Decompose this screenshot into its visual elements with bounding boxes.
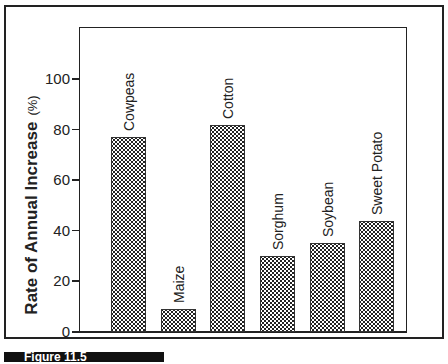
y-tick	[72, 78, 79, 80]
y-tick	[72, 230, 79, 232]
bar-cowpeas	[111, 137, 146, 332]
bar-label: Maize	[172, 266, 186, 303]
bar-label: Cotton	[221, 77, 235, 118]
bar-sweet-potato	[359, 221, 394, 332]
y-tick-label: 100	[34, 71, 70, 87]
y-tick	[72, 280, 79, 282]
bar-label: Cowpeas	[122, 73, 136, 131]
bar-label: Soybean	[321, 182, 335, 237]
bar-label: Sweet Potato	[370, 131, 384, 214]
bar-maize	[161, 309, 196, 332]
bar-soybean	[310, 243, 345, 332]
y-tick	[72, 331, 79, 333]
bar-sorghum	[260, 256, 295, 332]
bar-label: Sorghum	[271, 193, 285, 250]
y-tick	[72, 179, 79, 181]
figure-caption-tab: Figure 11.5	[4, 352, 164, 362]
y-axis-label: Rate of Annual Increase(%)	[22, 95, 42, 314]
y-tick-label: 0	[34, 324, 70, 340]
y-tick	[72, 129, 79, 131]
bar-cotton	[210, 125, 245, 332]
